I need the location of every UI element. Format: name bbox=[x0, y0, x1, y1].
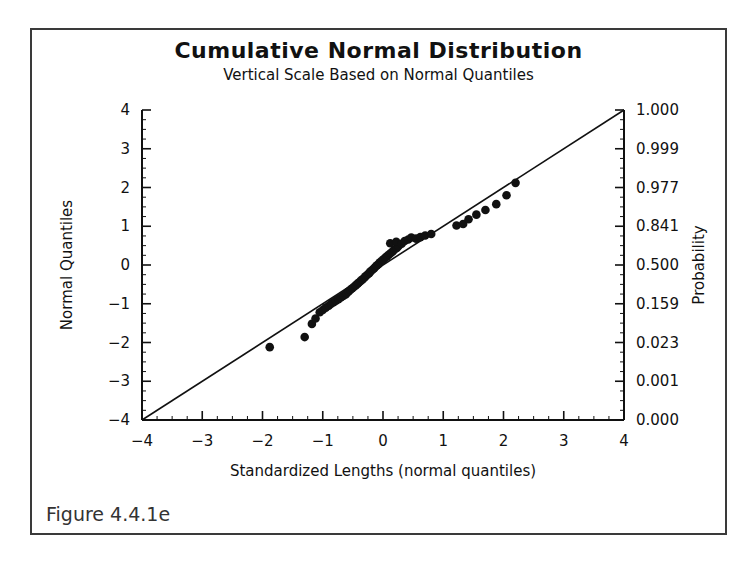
data-point bbox=[492, 200, 501, 209]
x-tick-label: −3 bbox=[191, 432, 213, 450]
x-tick-label: 3 bbox=[559, 432, 569, 450]
x-tick-label: 2 bbox=[499, 432, 509, 450]
y-tick-label: 3 bbox=[120, 140, 130, 158]
y-tick-label: 2 bbox=[120, 179, 130, 197]
y-tick-labels: −4−3−2−101234 bbox=[108, 101, 130, 429]
x-tick-label: −2 bbox=[251, 432, 273, 450]
y2-tick-label: 0.000 bbox=[636, 411, 679, 429]
x-tick-label: −1 bbox=[312, 432, 334, 450]
data-point bbox=[481, 206, 490, 215]
y-axis-title: Normal Quantiles bbox=[58, 200, 76, 330]
data-point bbox=[472, 210, 481, 219]
data-point bbox=[300, 333, 309, 342]
y2-tick-label: 0.023 bbox=[636, 334, 679, 352]
y2-tick-label: 0.159 bbox=[636, 295, 679, 313]
figure-frame: Cumulative Normal Distribution Vertical … bbox=[30, 28, 727, 535]
qq-plot: −4−3−2−101234 −4−3−2−101234 1.0000.9990.… bbox=[32, 30, 725, 533]
x-tick-labels: −4−3−2−101234 bbox=[131, 432, 629, 450]
x-tick-label: 4 bbox=[619, 432, 629, 450]
x-axis-title: Standardized Lengths (normal quantiles) bbox=[230, 462, 536, 480]
y-tick-label: 0 bbox=[120, 256, 130, 274]
x-tick-label: −4 bbox=[131, 432, 153, 450]
y-tick-label: 4 bbox=[120, 101, 130, 119]
y2-tick-label: 1.000 bbox=[636, 101, 679, 119]
x-tick-label: 1 bbox=[438, 432, 448, 450]
data-point bbox=[511, 179, 520, 188]
y-tick-label: −3 bbox=[108, 372, 130, 390]
data-point bbox=[265, 343, 274, 352]
y-tick-label: −2 bbox=[108, 334, 130, 352]
y2-tick-labels: 1.0000.9990.9770.8410.5000.1590.0230.001… bbox=[636, 101, 679, 429]
y-tick-label: −1 bbox=[108, 295, 130, 313]
figure-caption: Figure 4.4.1e bbox=[46, 503, 170, 525]
y-tick-label: −4 bbox=[108, 411, 130, 429]
y2-tick-label: 0.500 bbox=[636, 256, 679, 274]
y2-tick-label: 0.999 bbox=[636, 140, 679, 158]
y2-tick-label: 0.977 bbox=[636, 179, 679, 197]
x-tick-label: 0 bbox=[378, 432, 388, 450]
data-point bbox=[464, 215, 473, 224]
y2-axis-title: Probability bbox=[690, 225, 708, 304]
data-point bbox=[502, 191, 511, 200]
y2-tick-label: 0.001 bbox=[636, 372, 679, 390]
data-points bbox=[265, 179, 519, 352]
y2-tick-label: 0.841 bbox=[636, 217, 679, 235]
data-point bbox=[427, 230, 436, 239]
minor-ticks bbox=[142, 120, 624, 420]
y-tick-label: 1 bbox=[120, 217, 130, 235]
